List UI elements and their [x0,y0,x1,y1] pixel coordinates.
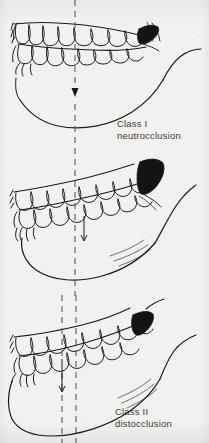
down-arrow-marker [81,216,87,241]
down-arrow-marker [59,359,65,392]
class-2-illustration [0,148,209,296]
down-arrow-marker [72,88,79,97]
occlusion-classification-figure: Class I neutrocclusion [0,0,209,443]
panel-class-1: Class I neutrocclusion [0,0,209,148]
caption-class-1-line2: neutrocclusion [117,130,181,142]
caption-class-1-line1: Class I [117,118,147,129]
panel-class-2: Class II distocclusion [0,148,209,296]
caption-class-1: Class I neutrocclusion [117,118,181,141]
class-3-illustration [0,295,209,443]
panel-class-3: Class III mesiocclusion [0,295,209,443]
